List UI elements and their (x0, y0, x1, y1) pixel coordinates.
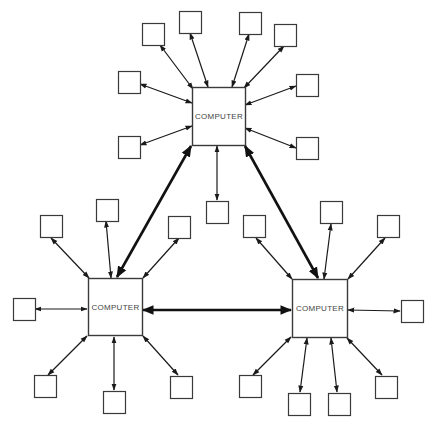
terminal-link (348, 310, 400, 311)
terminal-box-top (207, 202, 229, 224)
terminal-box-top (180, 12, 202, 34)
trunk-link-left-top (117, 146, 191, 277)
terminal-box-left (14, 299, 36, 321)
terminal-link (245, 128, 296, 148)
trunk-link-top-right (245, 146, 318, 278)
terminal-link (331, 338, 337, 392)
terminal-box-right (376, 377, 398, 399)
terminal-link (232, 34, 249, 87)
computer-label: COMPUTER (296, 304, 344, 313)
computer-node-top: COMPUTER (193, 88, 246, 146)
terminal-link (140, 84, 192, 103)
network-diagram: COMPUTERCOMPUTERCOMPUTER (0, 0, 432, 426)
terminal-box-right (289, 394, 311, 416)
terminal-box-top (143, 24, 165, 46)
terminal-link (160, 45, 193, 89)
terminal-box-right (329, 394, 351, 416)
terminal-box-right (321, 202, 343, 224)
terminal-link (253, 337, 291, 375)
terminal-link (244, 46, 284, 88)
terminal-box-top (297, 138, 319, 160)
terminal-link (256, 238, 292, 279)
terminal-link (347, 338, 382, 375)
terminal-box-right (402, 301, 424, 323)
terminal-link (48, 336, 87, 375)
terminal-link (51, 238, 89, 278)
terminal-box-top (119, 137, 141, 159)
terminal-box-right (240, 376, 262, 398)
terminal-link (143, 238, 179, 278)
terminal-link (140, 126, 192, 145)
terminal-link (245, 86, 296, 105)
terminal-box-top (240, 13, 262, 35)
terminal-box-left (171, 377, 193, 399)
terminal-box-left (35, 376, 57, 398)
diagram-canvas: COMPUTERCOMPUTERCOMPUTER (0, 0, 432, 426)
terminal-link (300, 338, 307, 392)
terminal-box-right (378, 216, 400, 238)
computer-node-left: COMPUTER (89, 279, 143, 336)
terminal-link (348, 238, 385, 279)
terminal-box-left (97, 200, 119, 222)
terminals (14, 12, 424, 416)
terminal-link (190, 33, 208, 87)
terminal-box-top (297, 75, 319, 97)
terminal-link (324, 224, 331, 279)
terminal-link (106, 221, 111, 278)
terminal-box-top (119, 72, 141, 94)
terminal-box-right (244, 216, 266, 238)
computer-node-right: COMPUTER (293, 280, 348, 338)
terminal-link (143, 336, 178, 375)
terminal-box-top (275, 25, 297, 47)
computer-label: COMPUTER (91, 303, 139, 312)
terminal-box-left (169, 217, 191, 239)
terminal-box-left (41, 216, 63, 238)
terminal-box-left (104, 392, 126, 414)
computer-label: COMPUTER (195, 112, 243, 121)
